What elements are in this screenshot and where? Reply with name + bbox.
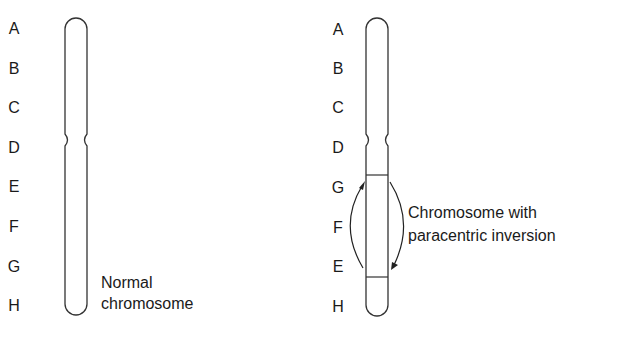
arrow-down-icon — [390, 182, 404, 270]
inverted-label-f: F — [330, 219, 346, 237]
normal-label-e: E — [6, 178, 22, 196]
chromosome-diagram — [0, 0, 625, 340]
normal-label-a: A — [6, 20, 22, 38]
inverted-label-a: A — [330, 21, 346, 39]
normal-label-f: F — [6, 218, 22, 236]
inverted-caption-line1: Chromosome with — [408, 203, 537, 222]
normal-caption-line1: Normal — [101, 273, 153, 292]
normal-label-d: D — [6, 139, 22, 157]
inverted-chromosome — [366, 18, 388, 316]
inverted-label-h: H — [330, 298, 346, 316]
normal-label-b: B — [6, 60, 22, 78]
normal-chromosome — [65, 18, 87, 315]
normal-label-c: C — [6, 99, 22, 117]
inverted-label-e: E — [330, 258, 346, 276]
arrow-up-icon — [350, 181, 365, 268]
inverted-label-d: D — [330, 139, 346, 157]
normal-label-h: H — [6, 297, 22, 315]
inverted-caption-line2: paracentric inversion — [408, 226, 556, 245]
inverted-label-b: B — [330, 60, 346, 78]
normal-label-g: G — [6, 258, 22, 276]
inverted-label-g: G — [330, 179, 346, 197]
inverted-label-c: C — [330, 99, 346, 117]
normal-caption-line2: chromosome — [101, 294, 193, 313]
